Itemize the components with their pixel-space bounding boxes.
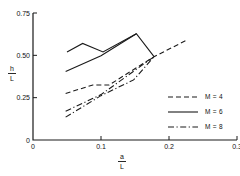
y-axis-title-denominator: L — [10, 75, 14, 82]
axes — [33, 13, 237, 140]
data-curves — [66, 34, 188, 117]
series-line-solid — [67, 34, 154, 57]
x-tick-label: 0 — [31, 143, 35, 150]
x-tick-label: 0.2 — [164, 143, 174, 150]
legend-label: M = 8 — [205, 123, 223, 130]
legend-label: M = 4 — [205, 93, 223, 100]
x-axis-title-numerator: a — [120, 153, 124, 160]
x-tick-label: 0.3 — [232, 143, 240, 150]
y-tick-label: 0.50 — [16, 52, 30, 59]
chart-container: 00.250.500.7500.10.20.3 hLaL M = 4M = 6M… — [0, 0, 240, 176]
y-tick-label: 0.25 — [16, 94, 30, 101]
y-axis-title-numerator: h — [10, 65, 14, 72]
y-tick-label: 0 — [26, 137, 30, 144]
axis-titles: hLaL — [8, 65, 126, 170]
line-chart: 00.250.500.7500.10.20.3 hLaL M = 4M = 6M… — [0, 0, 240, 176]
y-tick-label: 0.75 — [16, 10, 30, 17]
x-axis-title-denominator: L — [120, 163, 124, 170]
axis-lines — [33, 13, 237, 140]
legend-label: M = 6 — [205, 108, 223, 115]
series-line-dashed — [66, 40, 188, 94]
x-tick-label: 0.1 — [96, 143, 106, 150]
chart-legend: M = 4M = 6M = 8 — [168, 93, 223, 130]
